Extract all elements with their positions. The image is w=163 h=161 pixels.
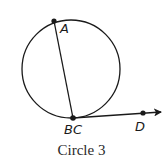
label-bc: BC	[64, 122, 83, 137]
point-a	[51, 18, 56, 23]
circle	[22, 20, 120, 118]
figure-caption: Circle 3	[0, 142, 163, 159]
point-bc	[70, 115, 76, 121]
label-a: A	[59, 21, 69, 36]
geometry-diagram: A BC D	[0, 0, 163, 161]
figure-circle-3: A BC D Circle 3	[0, 0, 163, 161]
label-d: D	[135, 119, 145, 134]
point-d	[140, 110, 145, 115]
